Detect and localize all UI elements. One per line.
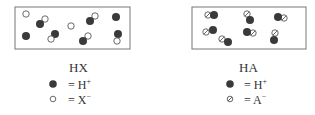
legend-x-icon	[50, 96, 56, 102]
ha-title: HA	[170, 60, 315, 76]
legend-h-icon-ha	[226, 80, 234, 88]
ha-box	[192, 7, 306, 49]
legend-h-icon-hx	[49, 80, 57, 88]
hx-title: HX	[0, 60, 157, 76]
legend-hx-h: = H+	[68, 77, 91, 93]
hx-box	[15, 7, 130, 49]
legend-a-icon	[227, 96, 233, 102]
diagram-canvas	[0, 0, 315, 115]
legend-hx-x: = X−	[68, 92, 91, 108]
legend-ha-h: = H+	[244, 77, 267, 93]
legend-ha-a: = A−	[244, 92, 266, 108]
